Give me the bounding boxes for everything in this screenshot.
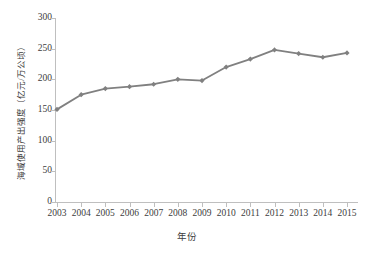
x-axis-line (55, 202, 358, 203)
data-point-marker (272, 47, 277, 52)
plot-area (55, 18, 357, 202)
y-axis-tick-label: 100 (30, 136, 52, 146)
x-axis-tick-mark (105, 203, 106, 207)
y-axis-tick-mark (51, 49, 55, 50)
x-axis-tick-mark (299, 203, 300, 207)
data-point-marker (151, 82, 156, 87)
x-axis-tick-mark (323, 203, 324, 207)
x-axis-tick-mark (202, 203, 203, 207)
data-point-marker (320, 55, 325, 60)
x-axis-tick-mark (81, 203, 82, 207)
data-point-marker (248, 56, 253, 61)
x-axis-tick-mark (154, 203, 155, 207)
y-axis-tick-labels: 050100150200250300 (30, 0, 52, 259)
x-axis-tick-mark (178, 203, 179, 207)
y-axis-tick-mark (51, 18, 55, 19)
line-chart: 海域使用产出强度（亿元/万公顷） 050100150200250300 2003… (0, 0, 373, 259)
data-point-marker (103, 86, 108, 91)
y-axis-tick-label: 150 (30, 105, 52, 115)
y-axis-tick-label: 300 (30, 13, 52, 23)
data-point-marker (344, 50, 349, 55)
data-series-line (55, 18, 357, 202)
x-axis-tick-mark (226, 203, 227, 207)
x-axis-title: 年份 (0, 229, 373, 243)
y-axis-tick-label: 250 (30, 44, 52, 54)
y-axis-tick-mark (51, 110, 55, 111)
x-axis-tick-mark (57, 203, 58, 207)
x-axis-tick-mark (130, 203, 131, 207)
y-axis-tick-mark (51, 202, 55, 203)
y-axis-tick-mark (51, 141, 55, 142)
x-axis-tick-mark (275, 203, 276, 207)
y-axis-tick-label: 50 (30, 166, 52, 176)
x-axis-tick-mark (347, 203, 348, 207)
y-axis-tick-mark (51, 171, 55, 172)
x-axis-tick-label: 2015 (327, 208, 367, 219)
y-axis-tick-label: 200 (30, 74, 52, 84)
data-point-marker (296, 51, 301, 56)
data-point-marker (175, 77, 180, 82)
y-axis-title: 海域使用产出强度（亿元/万公顷） (14, 18, 28, 204)
x-axis-tick-mark (250, 203, 251, 207)
y-axis-tick-mark (51, 79, 55, 80)
y-axis-tick-label: 0 (30, 197, 52, 207)
data-point-marker (127, 84, 132, 89)
